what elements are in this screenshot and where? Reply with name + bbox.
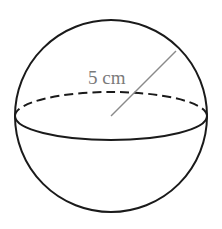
radius-label: 5 cm: [88, 67, 126, 88]
sphere-diagram: 5 cm: [0, 0, 222, 229]
equator-front-solid: [15, 116, 207, 140]
equator-back-dashed: [15, 92, 207, 116]
